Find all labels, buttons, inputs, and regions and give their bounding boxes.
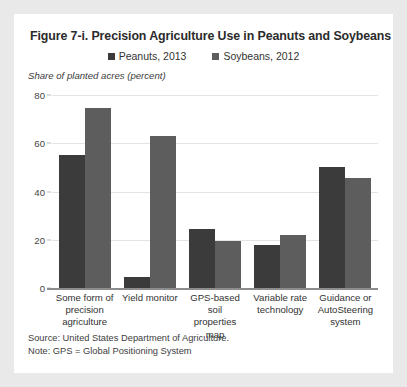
legend-item-peanuts: Peanuts, 2013 <box>108 50 187 62</box>
chart-legend: Peanuts, 2013 Soybeans, 2012 <box>14 50 393 62</box>
source-note: Source: United States Department of Agri… <box>28 332 229 345</box>
bar <box>85 108 111 288</box>
bar <box>345 178 371 288</box>
plot-area: 020406080 <box>52 95 378 288</box>
y-tick-label: 0 <box>40 283 45 294</box>
chart-title: Figure 7-i. Precision Agriculture Use in… <box>30 29 380 43</box>
bar-group <box>182 95 247 288</box>
bar-groups <box>52 95 378 288</box>
bar-group <box>313 95 378 288</box>
figure-footnotes: Source: United States Department of Agri… <box>28 332 229 358</box>
y-tick-mark <box>47 191 51 192</box>
x-axis-label: Guidance orAutoSteeringsystem <box>313 292 378 341</box>
y-tick-label: 20 <box>34 234 45 245</box>
legend-label-soybeans: Soybeans, 2012 <box>223 50 299 62</box>
legend-label-peanuts: Peanuts, 2013 <box>119 50 187 62</box>
legend-item-soybeans: Soybeans, 2012 <box>212 50 299 62</box>
y-tick-label: 40 <box>34 186 45 197</box>
x-axis-line <box>47 288 378 290</box>
bar <box>124 277 150 288</box>
figure-card: Figure 7-i. Precision Agriculture Use in… <box>14 14 393 373</box>
y-tick-mark <box>47 95 51 96</box>
bar-group <box>117 95 182 288</box>
legend-swatch-soybeans <box>212 53 219 60</box>
bar <box>189 229 215 288</box>
x-axis-label: Variable ratetechnology <box>248 292 313 341</box>
y-tick-label: 60 <box>34 138 45 149</box>
bar <box>254 245 280 288</box>
y-tick-mark <box>47 143 51 144</box>
bar <box>215 241 241 288</box>
legend-swatch-peanuts <box>108 53 115 60</box>
definition-note: Note: GPS = Global Positioning System <box>28 345 229 358</box>
y-tick-mark <box>47 239 51 240</box>
bar <box>150 136 176 288</box>
y-tick-label: 80 <box>34 90 45 101</box>
y-axis-title: Share of planted acres (percent) <box>28 70 166 81</box>
bar-group <box>248 95 313 288</box>
bar <box>319 167 345 288</box>
bar <box>59 155 85 288</box>
bar-group <box>52 95 117 288</box>
bar <box>280 235 306 288</box>
